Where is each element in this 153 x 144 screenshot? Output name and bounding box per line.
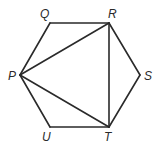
vertex-label-q: Q	[40, 8, 49, 20]
vertex-label-u: U	[42, 131, 51, 143]
edge-pr	[20, 23, 109, 75]
vertex-label-r: R	[108, 8, 117, 20]
vertex-label-s: S	[144, 70, 152, 82]
vertex-label-t: T	[104, 131, 111, 143]
edges-group	[20, 23, 140, 127]
edge-pt	[20, 75, 109, 127]
hexagon-figure	[0, 0, 153, 144]
edge-rs	[109, 23, 140, 75]
edge-up	[20, 75, 50, 127]
edge-st	[109, 75, 140, 127]
vertex-label-p: P	[8, 70, 16, 82]
edge-pq	[20, 23, 50, 75]
hexagon-diagram: Q R S T U P	[0, 0, 153, 144]
